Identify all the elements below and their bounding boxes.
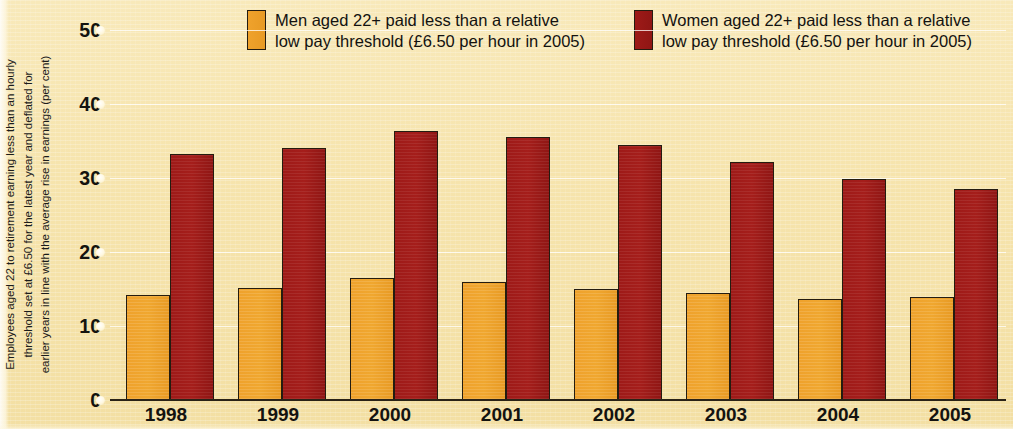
y-axis-tick-mark — [96, 26, 105, 35]
bar-men-2004 — [798, 299, 842, 400]
x-axis-line — [110, 399, 1006, 401]
bar-men-2005 — [910, 297, 954, 400]
x-axis-tick-label: 2003 — [670, 404, 782, 426]
bar-group — [446, 30, 558, 400]
x-axis-tick-label: 1999 — [222, 404, 334, 426]
bar-men-2003 — [686, 293, 730, 400]
y-axis-tick-mark — [96, 174, 105, 183]
y-axis-tick-label: 10 — [55, 315, 101, 338]
bar-group — [334, 30, 446, 400]
x-axis-tick-label: 2005 — [894, 404, 1006, 426]
bar-men-2000 — [350, 278, 394, 400]
bar-group — [670, 30, 782, 400]
y-axis-tick-label: 50 — [55, 19, 101, 42]
y-axis-tick-label: 0 — [55, 389, 101, 412]
bar-women-2003 — [730, 162, 774, 400]
bar-group — [894, 30, 1006, 400]
bar-men-1998 — [126, 295, 170, 400]
y-axis-tick-label: 40 — [55, 93, 101, 116]
bar-women-2002 — [618, 145, 662, 400]
bar-women-2005 — [954, 189, 998, 400]
y-axis-tick-mark — [96, 396, 105, 405]
bar-women-1999 — [282, 148, 326, 400]
x-axis-tick-label: 2002 — [558, 404, 670, 426]
bar-men-1999 — [238, 288, 282, 400]
y-axis-tick-mark — [96, 322, 105, 331]
bar-men-2002 — [574, 289, 618, 400]
page-bottom-edge — [0, 424, 1013, 429]
x-axis-tick-label: 2001 — [446, 404, 558, 426]
y-axis-tick-label: 30 — [55, 167, 101, 190]
bar-group — [782, 30, 894, 400]
x-axis-tick-label: 2004 — [782, 404, 894, 426]
y-axis-caption-text: Employees aged 22 to retirement earning … — [0, 56, 55, 374]
bar-women-2004 — [842, 179, 886, 400]
chart-page: Employees aged 22 to retirement earning … — [0, 0, 1013, 429]
bar-group — [110, 30, 222, 400]
x-axis-tick-label: 2000 — [334, 404, 446, 426]
y-axis-tick-label: 20 — [55, 241, 101, 264]
x-axis-tick-label: 1998 — [110, 404, 222, 426]
bar-women-2000 — [394, 131, 438, 400]
bar-women-2001 — [506, 137, 550, 400]
y-axis-tick-labels: 01020304050 — [55, 30, 101, 400]
bar-group — [558, 30, 670, 400]
bar-group — [222, 30, 334, 400]
plot-area — [110, 30, 1006, 400]
bar-women-1998 — [170, 154, 214, 400]
y-axis-tick-mark — [96, 248, 105, 257]
bar-men-2001 — [462, 282, 506, 400]
y-axis-tick-mark — [96, 100, 105, 109]
